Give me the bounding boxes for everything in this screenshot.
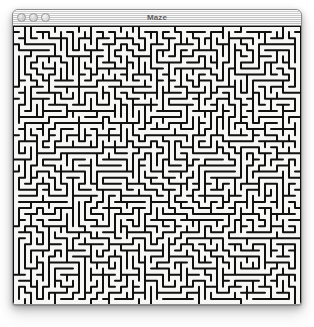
window-title: Maze <box>13 12 301 23</box>
maze-graphic <box>13 26 301 305</box>
window-titlebar[interactable]: Maze <box>13 10 301 26</box>
maze-canvas[interactable] <box>13 26 301 305</box>
maze-window[interactable]: Maze <box>12 9 302 305</box>
desktop-background: Maze <box>0 0 314 327</box>
